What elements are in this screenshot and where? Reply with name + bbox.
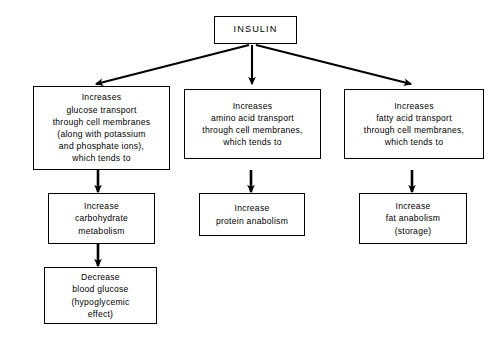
arrow-insulin-to-glucose [96,45,249,84]
insulin-title-box: INSULIN [214,16,297,44]
blood-glucose-box: Decrease blood glucose (hypoglycemic eff… [44,267,157,324]
glucose-transport-box: Increases glucose transport through cell… [33,86,170,170]
protein-anabolism-box: Increase protein anabolism [199,193,305,236]
arrow-insulin-to-fatty-acid [256,45,411,84]
fatty-acid-transport-box: Increases fatty acid transport through c… [344,89,484,159]
insulin-effects-diagram: INSULIN Increases glucose transport thro… [0,0,501,340]
amino-acid-transport-box: Increases amino acid transport through c… [184,89,321,159]
fat-anabolism-box: Increase fat anabolism (storage) [359,193,467,244]
carbohydrate-metabolism-box: Increase carbohydrate metabolism [48,193,155,244]
